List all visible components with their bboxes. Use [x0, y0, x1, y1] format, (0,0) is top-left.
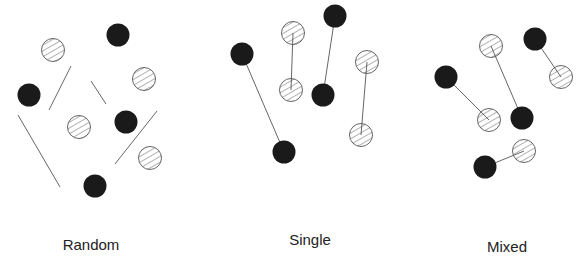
hatched-particle-icon — [280, 79, 303, 102]
connector-line — [242, 54, 284, 152]
hatched-particle-icon — [550, 66, 573, 89]
hatched-particle-icon — [42, 39, 65, 62]
panel-random — [18, 24, 162, 198]
solid-particle-icon — [524, 28, 547, 51]
solid-particle-icon — [312, 84, 335, 107]
connector-line — [323, 16, 335, 95]
hatched-particle-icon — [68, 116, 91, 139]
solid-particle-icon — [107, 24, 130, 47]
solid-particle-icon — [324, 5, 347, 28]
panel-single — [231, 5, 379, 164]
hatched-particle-icon — [478, 109, 501, 132]
solid-particle-icon — [474, 156, 497, 179]
hatched-particle-icon — [513, 140, 536, 163]
solid-particle-icon — [115, 111, 138, 134]
panel-label-mixed: Mixed — [487, 238, 527, 255]
panel-mixed — [435, 28, 573, 179]
solid-particle-icon — [84, 175, 107, 198]
hatched-particle-icon — [139, 147, 162, 170]
hatched-particle-icon — [282, 22, 305, 45]
hatched-particle-icon — [133, 68, 156, 91]
connector-line — [91, 81, 106, 104]
solid-particle-icon — [231, 43, 254, 66]
hatched-particle-icon — [356, 51, 379, 74]
panel-label-random: Random — [63, 236, 120, 253]
solid-particle-icon — [511, 107, 534, 130]
solid-particle-icon — [273, 141, 296, 164]
connector-line — [18, 115, 60, 187]
solid-particle-icon — [18, 84, 41, 107]
panel-label-single: Single — [289, 231, 331, 248]
connector-line — [49, 66, 71, 110]
hatched-particle-icon — [480, 35, 503, 58]
hatched-particle-icon — [350, 124, 373, 147]
solid-particle-icon — [435, 66, 458, 89]
